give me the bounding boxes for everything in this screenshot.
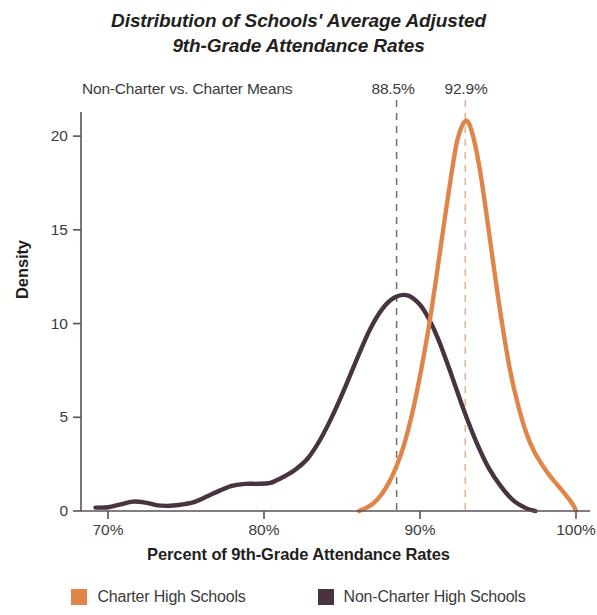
density-curve-non-charter (96, 295, 536, 511)
legend-item[interactable]: Non-Charter High Schools (318, 588, 526, 606)
x-tick-label: 100% (556, 521, 596, 539)
x-axis-title: Percent of 9th-Grade Attendance Rates (0, 545, 597, 564)
legend-item[interactable]: Charter High Schools (71, 588, 245, 606)
legend-swatch-icon (318, 589, 334, 605)
y-tick-label: 0 (28, 502, 68, 520)
plot-area (0, 0, 597, 615)
y-tick-label: 10 (28, 315, 68, 333)
y-tick-label: 15 (28, 221, 68, 239)
y-axis-title: Density (13, 210, 32, 330)
x-tick-label: 80% (248, 521, 279, 539)
y-tick-label: 20 (28, 127, 68, 145)
legend-label: Charter High Schools (97, 588, 245, 606)
density-curve-charter (359, 121, 576, 511)
chart-figure: Distribution of Schools' Average Adjuste… (0, 0, 597, 615)
x-tick-label: 90% (404, 521, 435, 539)
legend-label: Non-Charter High Schools (344, 588, 526, 606)
density-curves (96, 121, 576, 511)
chart-legend: Charter High SchoolsNon-Charter High Sch… (0, 588, 597, 606)
x-tick-label: 70% (92, 521, 123, 539)
y-tick-label: 5 (28, 408, 68, 426)
legend-swatch-icon (71, 589, 87, 605)
